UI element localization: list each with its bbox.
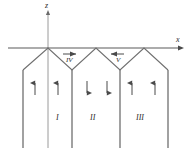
region-label-iii: III (136, 114, 144, 122)
closure-domain-label-v: V (116, 57, 120, 64)
z-axis (46, 10, 50, 148)
region-label-i: I (56, 114, 59, 122)
domain-structure-figure: z x IV V I II III (0, 0, 191, 154)
zigzag-domain-walls (23, 48, 168, 70)
magnetization-arrows (35, 81, 155, 95)
closure-domain-label-iv: IV (66, 57, 73, 64)
vertical-domain-walls (23, 70, 168, 148)
z-axis-label: z (45, 2, 48, 10)
region-label-ii: II (90, 114, 95, 122)
x-axis-label: x (176, 36, 180, 44)
diagram-canvas (0, 0, 191, 154)
